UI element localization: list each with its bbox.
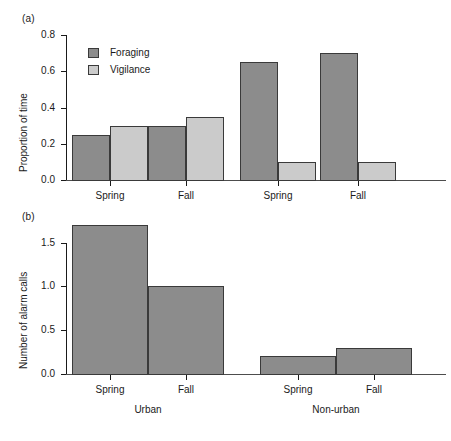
panel-b-bar-spring-0 xyxy=(72,225,148,375)
panel-b-y-tick-label: 1.5 xyxy=(22,238,55,248)
panel-b-x-tick xyxy=(110,375,111,380)
panel-b-y-tick-label: 1.0 xyxy=(22,281,55,291)
panel-b-x-tick-label-1: Fall xyxy=(146,384,226,395)
panel-a-bar-foraging-fall-1 xyxy=(148,126,186,181)
panel-a-y-tick xyxy=(61,71,66,72)
panel-b-number-of-alarm-calls: (b) Number of alarm calls 0.00.51.01.5 S… xyxy=(0,205,451,441)
panel-a-x-tick-label-1: Fall xyxy=(146,190,226,201)
panel-b-group-label-urban: Urban xyxy=(98,404,198,415)
panel-b-x-tick xyxy=(186,375,187,380)
legend-label-vigilance: Vigilance xyxy=(110,64,150,75)
panel-a-x-tick xyxy=(278,181,279,186)
panel-a-bar-vigilance-fall-1 xyxy=(186,117,224,181)
panel-a-x-tick-label-2: Spring xyxy=(238,190,318,201)
panel-b-bar-spring-2 xyxy=(260,356,336,375)
panel-a-y-tick-label: 0.8 xyxy=(22,30,55,40)
panel-a-x-tick xyxy=(110,181,111,186)
panel-b-y-tick xyxy=(61,330,66,331)
panel-b-y-tick xyxy=(61,286,66,287)
panel-a-y-tick xyxy=(61,144,66,145)
panel-a-bar-vigilance-fall-3 xyxy=(358,162,396,181)
panel-b-y-tick-label: 0.5 xyxy=(22,325,55,335)
panel-a-bar-foraging-fall-3 xyxy=(320,53,358,181)
panel-b-y-tick xyxy=(61,243,66,244)
figure-panels: (a) Proportion of time 0.00.20.40.60.8 S… xyxy=(0,0,451,441)
panel-a-bar-vigilance-spring-2 xyxy=(278,162,316,181)
panel-b-y-tick-label: 0.0 xyxy=(22,369,55,379)
panel-b-x-tick-label-2: Spring xyxy=(258,384,338,395)
panel-a-label: (a) xyxy=(22,13,35,24)
panel-a-y-tick-label: 0.4 xyxy=(22,103,55,113)
panel-a-y-tick-label: 0.2 xyxy=(22,139,55,149)
panel-b-x-tick-label-0: Spring xyxy=(70,384,150,395)
panel-a-bar-foraging-spring-2 xyxy=(240,62,278,181)
panel-b-x-tick xyxy=(374,375,375,380)
panel-b-group-label-non-urban: Non-urban xyxy=(286,404,386,415)
panel-b-label: (b) xyxy=(22,211,35,222)
panel-a-x-tick xyxy=(358,181,359,186)
panel-a-y-tick xyxy=(61,108,66,109)
panel-a-y-tick-label: 0.6 xyxy=(22,66,55,76)
panel-b-y-axis-line xyxy=(66,243,67,375)
legend-label-foraging: Foraging xyxy=(110,47,149,58)
panel-a-x-tick-label-0: Spring xyxy=(70,190,150,201)
panel-a-y-tick xyxy=(61,35,66,36)
panel-a-y-tick-label: 0.0 xyxy=(22,175,55,185)
panel-a-y-axis-line xyxy=(66,35,67,181)
panel-b-x-tick-label-3: Fall xyxy=(334,384,414,395)
legend-swatch-vigilance xyxy=(88,65,99,75)
panel-a-bar-foraging-spring-0 xyxy=(72,135,110,181)
panel-b-bar-fall-3 xyxy=(336,348,412,375)
panel-b-bar-fall-1 xyxy=(148,286,224,375)
panel-a-proportion-of-time: (a) Proportion of time 0.00.20.40.60.8 S… xyxy=(0,0,451,205)
panel-a-x-tick xyxy=(186,181,187,186)
panel-a-bar-vigilance-spring-0 xyxy=(110,126,148,181)
panel-b-x-tick xyxy=(298,375,299,380)
panel-a-x-tick-label-3: Fall xyxy=(318,190,398,201)
legend-swatch-foraging xyxy=(88,48,99,58)
